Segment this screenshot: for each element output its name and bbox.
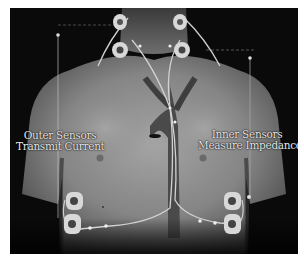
inner-arrow-head	[248, 56, 252, 60]
electrode-neck-right-inner	[174, 42, 190, 58]
outer-sensors-label: Outer Sensors Transmit Current	[16, 130, 104, 152]
electrode-ribs-left-inner	[66, 192, 83, 210]
electrode-ribs-left-outer	[64, 214, 81, 234]
nipple-left	[97, 155, 104, 162]
inner-sensors-label: Inner Sensors Measure Impedance	[198, 129, 296, 151]
nipple-right	[200, 155, 207, 162]
outer-arrow-head	[56, 33, 60, 37]
electrode-ribs-right-outer	[224, 214, 241, 234]
electrode-neck-right-outer	[173, 14, 187, 30]
chest-sensor-diagram: Outer Sensors Transmit Current Inner Sen…	[10, 8, 298, 254]
inner-sensors-line2: Measure Impedance	[198, 140, 296, 151]
electrode-neck-left-inner	[112, 42, 128, 58]
electrode-ribs-right-inner	[224, 192, 241, 210]
electrode-neck-left-outer	[113, 14, 127, 30]
outer-sensors-line2: Transmit Current	[16, 141, 104, 152]
